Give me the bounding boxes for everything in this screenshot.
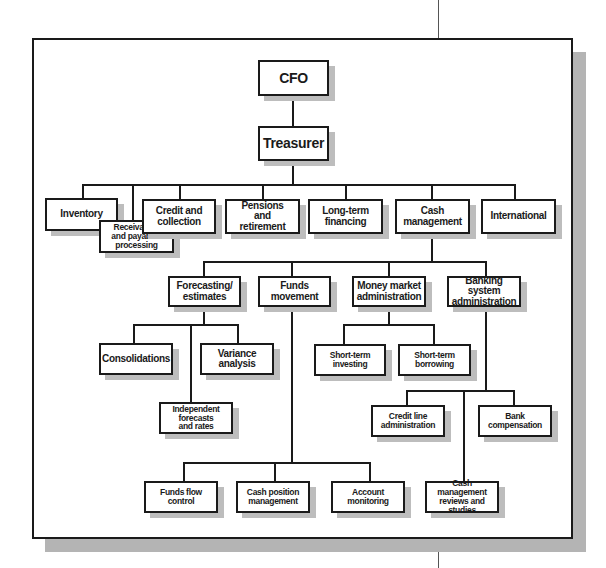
connector xyxy=(183,462,185,481)
node-funds-flow: Funds flow control xyxy=(144,481,218,513)
connector xyxy=(82,184,84,198)
connector xyxy=(463,390,465,481)
node-cfo: CFO xyxy=(258,60,329,96)
node-treasurer: Treasurer xyxy=(258,126,329,161)
node-bank-compensation: Bank compensation xyxy=(478,405,552,437)
connector xyxy=(132,184,134,220)
connector xyxy=(388,261,390,276)
node-forecasting: Forecasting/ estimates xyxy=(168,276,241,307)
node-st-borrowing: Short-term borrowing xyxy=(398,344,471,376)
connector xyxy=(485,305,487,391)
connector xyxy=(262,184,264,199)
connector xyxy=(406,390,514,392)
node-consolidations: Consolidations xyxy=(99,343,173,375)
node-account-monitoring: Account monitoring xyxy=(331,481,405,513)
connector xyxy=(485,261,487,276)
connector xyxy=(133,324,238,326)
node-variance: Variance analysis xyxy=(200,343,274,375)
connector xyxy=(203,261,205,276)
connector xyxy=(291,305,293,463)
connector xyxy=(183,462,371,464)
node-credit-line: Credit line administration xyxy=(371,405,445,437)
connector xyxy=(203,261,487,263)
connector xyxy=(345,184,347,199)
node-cash-position: Cash position management xyxy=(236,481,310,513)
node-independent: Independent forecasts and rates xyxy=(159,402,233,434)
connector xyxy=(433,324,435,344)
connector xyxy=(274,462,276,481)
connector xyxy=(369,462,371,481)
node-pensions: Pensions and retirement xyxy=(225,199,300,234)
node-cash-management: Cash management xyxy=(395,199,470,234)
connector xyxy=(237,324,239,343)
connector xyxy=(343,324,345,344)
node-credit: Credit and collection xyxy=(142,199,216,234)
connector xyxy=(82,184,516,186)
node-funds-movement: Funds movement xyxy=(258,276,331,307)
node-cm-reviews: Cash management reviews and studies xyxy=(425,481,499,513)
node-international: International xyxy=(481,199,556,234)
connector xyxy=(343,324,435,326)
node-banking-system: Banking system administration xyxy=(447,276,521,307)
connector xyxy=(291,261,293,276)
page-edge-line-top xyxy=(438,0,439,38)
node-longterm: Long-term financing xyxy=(308,199,383,234)
connector xyxy=(133,324,135,343)
connector xyxy=(431,184,433,199)
connector xyxy=(514,184,516,199)
connector xyxy=(190,324,192,402)
node-money-market: Money market administration xyxy=(352,276,426,307)
connector xyxy=(406,390,408,405)
connector xyxy=(179,184,181,199)
node-st-investing: Short-term investing xyxy=(314,344,386,376)
connector xyxy=(513,390,515,405)
